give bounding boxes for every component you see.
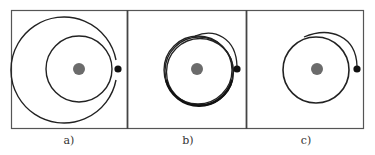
panel-c [283,33,361,103]
panel-a [11,17,122,123]
satellite-dot [233,65,240,72]
satellite-dot [114,65,121,72]
orbit-thick-bottom [166,80,232,106]
panel-label-a: a) [49,134,89,147]
figure-frame [12,11,364,129]
orbit-diagram [0,0,375,155]
panel-label-b: b) [168,134,208,147]
panel-b [164,33,241,105]
outer-spiral-orbit [11,17,116,123]
central-body [311,63,323,75]
panel-label-c: c) [286,134,326,147]
satellite-dot [353,65,360,72]
central-body [73,63,85,75]
central-body [191,63,203,75]
